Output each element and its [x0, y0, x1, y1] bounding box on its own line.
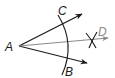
label-c: C — [58, 4, 67, 18]
label-d: D — [98, 25, 107, 39]
label-b: B — [65, 65, 73, 78]
ray-ab — [19, 46, 87, 63]
label-a: A — [4, 40, 13, 54]
angle-bisector-diagram: A C B D — [0, 0, 115, 78]
